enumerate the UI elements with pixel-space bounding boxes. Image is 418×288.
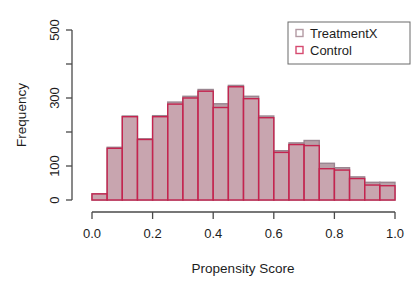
x-tick-label-0.4: 0.4 [204,226,222,241]
y-tick-label-0: 0 [47,196,62,203]
chart-legend: TreatmentXControl [288,22,410,64]
histogram-bar-control-10 [244,99,259,200]
y-tick-label-300: 300 [47,87,62,109]
histogram-bar-control-0 [92,194,107,200]
histogram-bar-control-13 [289,145,304,200]
legend-label-control: Control [310,43,352,58]
x-tick-label-1.0: 1.0 [386,226,404,241]
legend-swatch-treatmentx [296,30,303,37]
x-tick-label-0.6: 0.6 [265,226,283,241]
histogram-bar-control-8 [213,108,228,200]
histogram-bar-control-12 [274,152,289,200]
histogram-bar-control-1 [107,148,122,200]
histogram-bar-control-17 [350,179,365,200]
histogram-bar-control-14 [304,146,319,200]
histogram-bar-control-6 [183,98,198,200]
histogram-bar-control-7 [198,91,213,200]
histogram-bar-control-18 [365,185,380,200]
histogram-bar-control-4 [153,117,168,200]
histogram-bar-control-16 [334,170,349,200]
histogram-bar-control-15 [319,169,334,200]
histogram-bar-control-2 [122,117,137,200]
histogram-chart: 0100300500 Frequency 0.00.20.40.60.81.0 … [0,0,418,288]
histogram-bar-control-5 [168,104,183,200]
legend-swatch-control [296,47,303,54]
histogram-bar-control-9 [228,87,243,200]
y-axis-title: Frequency [14,83,29,147]
histogram-bar-control-11 [259,118,274,200]
y-tick-label-100: 100 [47,155,62,177]
x-tick-label-0.2: 0.2 [144,226,162,241]
x-tick-label-0.8: 0.8 [325,226,343,241]
histogram-bar-control-3 [137,139,152,200]
legend-label-treatmentx: TreatmentX [310,26,378,41]
x-axis-title: Propensity Score [192,261,295,276]
chart-svg: 0100300500 Frequency 0.00.20.40.60.81.0 … [0,0,418,288]
x-tick-label-0.0: 0.0 [83,226,101,241]
y-tick-label-500: 500 [47,19,62,41]
histogram-bar-control-19 [380,186,395,200]
